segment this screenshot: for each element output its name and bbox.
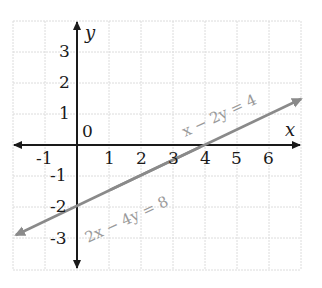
x-tick-6: 6 [263, 148, 274, 168]
coordinate-graph: y x 0 -1 1 2 3 4 5 6 3 2 1 -1 -2 -3 x − … [0, 0, 322, 288]
graph-canvas: y x 0 -1 1 2 3 4 5 6 3 2 1 -1 -2 -3 x − … [0, 0, 322, 288]
origin-label: 0 [82, 121, 93, 141]
y-tick-neg3: -3 [50, 228, 67, 248]
x-tick-3: 3 [168, 148, 179, 168]
y-tick-1: 1 [59, 103, 70, 123]
x-tick-5: 5 [231, 148, 242, 168]
y-tick-2: 2 [59, 72, 70, 92]
x-tick-2: 2 [136, 148, 147, 168]
y-axis-label: y [84, 22, 96, 43]
y-tick-neg2: -2 [50, 196, 67, 216]
equation-label-1: x − 2y = 4 [179, 90, 259, 140]
y-tick-3: 3 [59, 41, 70, 61]
x-tick-4: 4 [200, 148, 211, 168]
x-axis-label: x [285, 119, 295, 140]
x-tick-1: 1 [104, 148, 115, 168]
y-tick-neg1: -1 [50, 165, 67, 185]
